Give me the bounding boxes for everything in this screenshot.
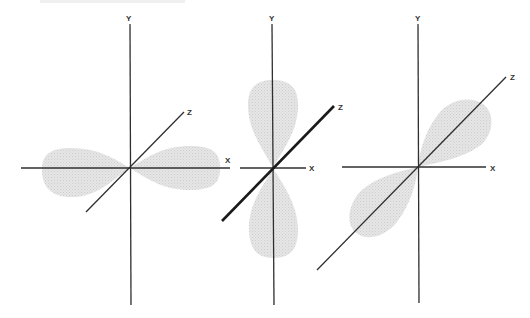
- x-axis-label: X: [225, 156, 231, 165]
- panel-pz-orbital: Y X Z: [317, 14, 515, 303]
- x-axis-label: X: [309, 164, 315, 173]
- orbital-diagram-canvas: Y X Z Y X Z Y X Z: [0, 0, 530, 318]
- z-axis-label: Z: [510, 73, 515, 82]
- y-axis: [130, 24, 131, 305]
- z-axis: [317, 77, 506, 270]
- y-axis-label: Y: [126, 14, 132, 23]
- panel-px-orbital: Y X Z: [21, 14, 231, 305]
- x-axis-label: X: [490, 164, 496, 173]
- y-axis-label: Y: [415, 14, 421, 23]
- z-axis-label: Z: [187, 108, 192, 117]
- lobe-negative-x: [42, 148, 130, 197]
- lobe-positive-z: [418, 100, 492, 167]
- z-axis-label: Z: [338, 103, 343, 112]
- y-axis: [418, 24, 419, 303]
- y-axis-label: Y: [269, 14, 275, 23]
